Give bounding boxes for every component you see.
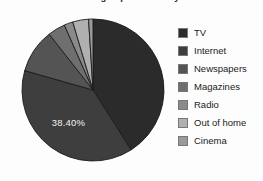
legend-item-tv[interactable]: TV xyxy=(178,24,263,42)
legend-label-out-of-home: Out of home xyxy=(194,118,246,128)
legend-label-tv: TV xyxy=(194,28,206,38)
legend-label-magazines: Magazines xyxy=(194,82,240,92)
legend-swatch-out-of-home-icon xyxy=(178,118,188,128)
pie-slice-label-internet: 38.40% xyxy=(52,117,86,128)
legend-swatch-internet-icon xyxy=(178,46,188,56)
legend-swatch-magazines-icon xyxy=(178,82,188,92)
legend-swatch-cinema-icon xyxy=(178,136,188,146)
legend-swatch-radio-icon xyxy=(178,100,188,110)
legend-item-magazines[interactable]: Magazines xyxy=(178,78,263,96)
legend-item-cinema[interactable]: Cinema xyxy=(178,132,263,150)
legend-swatch-tv-icon xyxy=(178,28,188,38)
legend-item-internet[interactable]: Internet xyxy=(178,42,263,60)
legend-label-newspapers: Newspapers xyxy=(194,64,247,74)
pie-slice-labels: 38.40% xyxy=(52,117,86,128)
pie-chart-figure: Advertising expenditure by media 38.40% … xyxy=(0,0,263,181)
pie-slices xyxy=(22,19,164,161)
legend-label-radio: Radio xyxy=(194,100,219,110)
legend-item-out-of-home[interactable]: Out of home xyxy=(178,114,263,132)
legend-swatch-newspapers-icon xyxy=(178,64,188,74)
chart-legend: TVInternetNewspapersMagazinesRadioOut of… xyxy=(178,24,263,150)
legend-item-newspapers[interactable]: Newspapers xyxy=(178,60,263,78)
legend-label-internet: Internet xyxy=(194,46,226,56)
legend-label-cinema: Cinema xyxy=(194,136,227,146)
legend-item-radio[interactable]: Radio xyxy=(178,96,263,114)
